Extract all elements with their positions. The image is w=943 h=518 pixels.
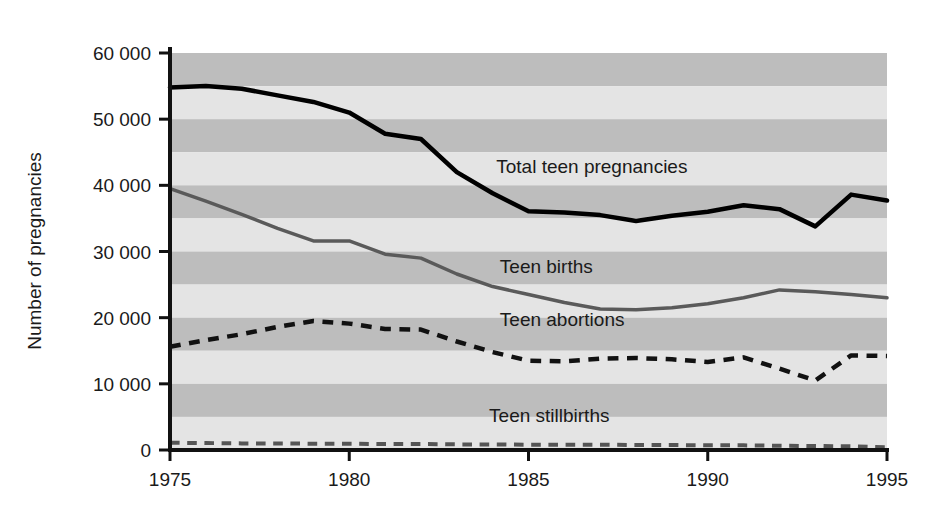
y-tick-label: 20 000 — [93, 308, 151, 329]
band-stripe — [170, 185, 887, 218]
chart-container: 010 00020 00030 00040 00050 00060 000 19… — [0, 0, 943, 518]
band-stripe — [170, 86, 887, 119]
y-tick-label: 0 — [140, 440, 151, 461]
y-axis-title: Number of pregnancies — [24, 152, 45, 350]
series-label-2: Teen abortions — [500, 309, 625, 330]
y-tick-label: 40 000 — [93, 175, 151, 196]
y-tick-label: 50 000 — [93, 109, 151, 130]
series-label-0: Total teen pregnancies — [496, 156, 687, 177]
x-tick-label: 1990 — [687, 469, 729, 490]
band-stripe — [170, 218, 887, 251]
x-tick-label: 1995 — [866, 469, 908, 490]
background-bands — [170, 53, 887, 450]
x-tick-label: 1975 — [149, 469, 191, 490]
x-tick-label: 1980 — [328, 469, 370, 490]
series-label-3: Teen stillbirths — [489, 405, 609, 426]
band-stripe — [170, 119, 887, 152]
y-tick-label: 60 000 — [93, 43, 151, 64]
band-stripe — [170, 351, 887, 384]
band-stripe — [170, 53, 887, 86]
y-tick-label: 30 000 — [93, 242, 151, 263]
series-label-1: Teen births — [500, 256, 593, 277]
line-chart: 010 00020 00030 00040 00050 00060 000 19… — [0, 0, 943, 518]
y-tick-label: 10 000 — [93, 374, 151, 395]
x-tick-label: 1985 — [507, 469, 549, 490]
